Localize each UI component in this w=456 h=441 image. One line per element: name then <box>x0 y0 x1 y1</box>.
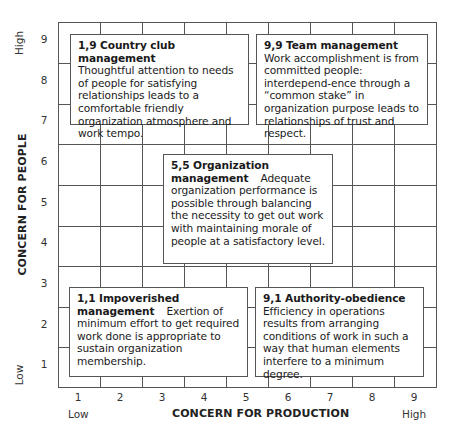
y-tick: 7 <box>38 114 50 126</box>
style-title: 1,9 Country club management <box>78 39 175 64</box>
y-axis-low-label: Low <box>13 355 25 395</box>
y-axis-title: CONCERN FOR PEOPLE <box>16 130 29 280</box>
x-axis-low-label: Low <box>68 408 89 420</box>
y-tick: 5 <box>38 196 50 208</box>
x-axis-title: CONCERN FOR PRODUCTION <box>172 407 349 420</box>
style-box-country-club: 1,9 Country club management Thoughtful a… <box>70 34 249 125</box>
y-tick: 3 <box>38 277 50 289</box>
managerial-grid-diagram: 9 8 7 6 5 4 3 2 1 1 2 3 4 5 6 7 8 9 Low … <box>0 0 456 441</box>
x-tick: 6 <box>282 391 294 403</box>
x-tick: 1 <box>72 391 84 403</box>
y-tick: 8 <box>38 74 50 86</box>
y-tick: 6 <box>38 155 50 167</box>
style-title: 5,5 Organization management <box>171 159 269 184</box>
style-title: 9,9 Team management <box>264 39 398 51</box>
style-box-organization: 5,5 Organization managementAdequate orga… <box>163 154 333 264</box>
grid-line-horizontal <box>59 266 436 267</box>
x-tick: 4 <box>198 391 210 403</box>
style-box-impoverished: 1,1 Impoverished managementExertion of m… <box>69 287 248 377</box>
style-title: 9,1 Authority-obedience <box>263 292 405 304</box>
y-axis-high-label: High <box>13 23 25 63</box>
style-box-team: 9,9 Team management Work accomplishment … <box>256 34 428 125</box>
grid-line-horizontal <box>59 144 436 145</box>
y-tick: 9 <box>38 33 50 45</box>
x-tick: 5 <box>240 391 252 403</box>
y-tick: 4 <box>38 236 50 248</box>
x-axis-high-label: High <box>402 408 426 420</box>
x-tick: 7 <box>324 391 336 403</box>
x-tick: 9 <box>408 391 420 403</box>
style-box-authority-obedience: 9,1 Authority-obedience Efficiency in op… <box>255 287 424 377</box>
x-tick: 8 <box>366 391 378 403</box>
x-tick: 2 <box>114 391 126 403</box>
style-description: Efficiency in operations results from ar… <box>263 305 408 380</box>
x-tick: 3 <box>156 391 168 403</box>
style-title: 1,1 Impoverished management <box>77 292 179 317</box>
y-tick: 2 <box>38 318 50 330</box>
y-tick: 1 <box>38 358 50 370</box>
